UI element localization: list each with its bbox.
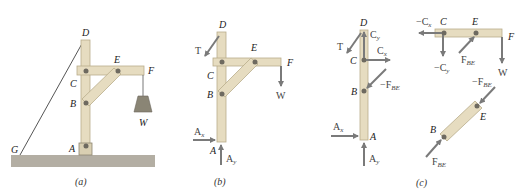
pin-e <box>474 31 479 36</box>
label-a: A <box>369 131 377 142</box>
weight-w <box>134 96 152 112</box>
label-t: T <box>195 45 201 56</box>
label-ay: Ay <box>226 153 237 166</box>
label-w: W <box>139 117 149 128</box>
pin-a <box>84 144 89 149</box>
label-c: C <box>70 78 77 89</box>
label-b: B <box>430 124 436 135</box>
label-f: F <box>507 31 515 42</box>
pin-b <box>442 135 447 140</box>
force-fbe <box>426 140 441 157</box>
label-b: B <box>207 89 213 100</box>
label-fbe-neg: −FBE <box>472 76 492 89</box>
panel-c-column: D C B A T Cy Cx −FBE Ax Ay <box>331 17 400 166</box>
label-b: B <box>70 98 76 109</box>
pin-e <box>116 69 121 74</box>
label-c: C <box>440 16 447 27</box>
label-a: A <box>68 143 76 154</box>
statics-figure: D E F C B W G A (a) D E F C B A T W Ax A… <box>0 0 523 192</box>
label-cy: Cy <box>370 29 381 42</box>
label-t: T <box>337 41 343 52</box>
caption-b: (b) <box>214 176 226 188</box>
label-fbe-neg: −FBE <box>380 79 400 92</box>
label-w: W <box>276 90 286 101</box>
force-t <box>347 33 361 53</box>
label-ay: Ay <box>369 153 380 166</box>
pin-e <box>475 104 480 109</box>
label-c: C <box>207 70 214 81</box>
label-c: C <box>350 55 357 66</box>
label-fbe: FBE <box>432 156 447 169</box>
label-e: E <box>471 16 478 27</box>
caption-a: (a) <box>75 176 87 188</box>
pin-b <box>84 101 89 106</box>
label-e: E <box>113 54 120 65</box>
pin-c <box>84 69 89 74</box>
label-e: E <box>250 42 257 53</box>
caption-c: (c) <box>416 177 428 189</box>
label-d: D <box>81 27 90 38</box>
ground <box>11 155 155 167</box>
pin-c <box>442 31 447 36</box>
label-b: B <box>351 86 357 97</box>
label-d: D <box>218 19 227 30</box>
label-fbe: FBE <box>461 54 476 67</box>
force-fbe <box>459 37 474 53</box>
label-ax: Ax <box>333 121 344 134</box>
panel-c-beam: C E F −Cx −Cy FBE W <box>416 16 515 78</box>
panel-c-strut: B E −FBE FBE (c) <box>416 76 495 189</box>
label-e: E <box>479 111 486 122</box>
label-a: A <box>209 145 217 156</box>
label-f: F <box>286 57 294 68</box>
label-cx-neg: −Cx <box>416 16 432 29</box>
label-d: D <box>359 17 368 28</box>
panel-b: D E F C B A T W Ax Ay (b) <box>193 19 294 188</box>
label-f: F <box>147 65 155 76</box>
panel-a: D E F C B W G A (a) <box>11 27 155 188</box>
label-g: G <box>11 144 18 155</box>
pin-c <box>220 60 225 65</box>
label-w: W <box>498 67 508 78</box>
pin-b <box>220 92 225 97</box>
label-cx: Cx <box>377 45 388 58</box>
pin-b <box>362 89 367 94</box>
pin-c <box>362 58 367 63</box>
pin-e <box>253 60 258 65</box>
label-cy-neg: −Cy <box>434 62 450 75</box>
label-ax: Ax <box>194 126 205 139</box>
force-fbe-neg <box>480 87 495 103</box>
